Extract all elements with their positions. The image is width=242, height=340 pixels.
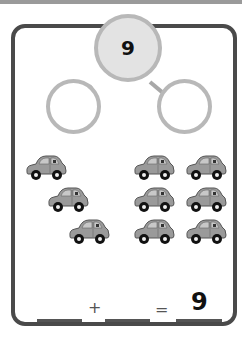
plus-sign: + bbox=[88, 298, 101, 317]
addend2-blank[interactable] bbox=[105, 319, 150, 322]
car-icon bbox=[184, 184, 228, 214]
bond-part-right-circle[interactable] bbox=[157, 79, 212, 134]
equals-sign: = bbox=[155, 300, 168, 319]
bond-part-left-value bbox=[50, 83, 97, 130]
addend1-blank[interactable] bbox=[37, 319, 82, 322]
car-icon bbox=[132, 216, 176, 246]
sum-blank bbox=[176, 319, 222, 322]
car-icon bbox=[184, 216, 228, 246]
car-icon bbox=[132, 152, 176, 182]
bond-part-right-value bbox=[161, 83, 208, 130]
car-icon bbox=[132, 184, 176, 214]
car-icon bbox=[184, 152, 228, 182]
car-icon bbox=[46, 184, 90, 214]
bond-whole-value: 9 bbox=[98, 18, 158, 78]
top-border-line bbox=[0, 0, 242, 4]
sum-value: 9 bbox=[191, 288, 208, 316]
bond-part-left-circle[interactable] bbox=[46, 79, 101, 134]
car-icon bbox=[67, 216, 111, 246]
bond-whole-circle: 9 bbox=[94, 14, 162, 82]
car-icon bbox=[24, 152, 68, 182]
